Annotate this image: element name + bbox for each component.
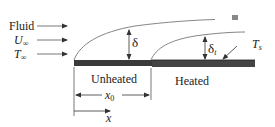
unheated-plate [74, 60, 152, 66]
flow-arrows [37, 26, 67, 54]
heated-label: Heated [175, 75, 209, 87]
thermal-boundary-layer [151, 32, 245, 60]
ts-label: Ts [252, 38, 262, 54]
thermal-entry-diagram: Fluid U∞ T∞ δ δt Ts Unheated Heated x0 x [0, 0, 275, 127]
heated-plate [152, 60, 255, 67]
unheated-label: Unheated [91, 73, 137, 85]
diagram-graphics [0, 0, 275, 127]
fluid-label: Fluid [9, 20, 34, 32]
delta-t-label: δt [208, 43, 216, 59]
delta-label: δ [132, 37, 138, 49]
ts-leader-arrow [223, 46, 237, 59]
smudge-artifact [232, 15, 238, 20]
t-infinity-label: T∞ [14, 48, 26, 64]
x0-label: x0 [105, 89, 114, 105]
x-label: x [106, 112, 111, 124]
velocity-boundary-layer [74, 20, 215, 61]
